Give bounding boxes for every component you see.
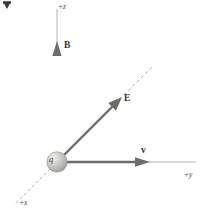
e-extension-dashed-line xyxy=(124,66,153,95)
vector-label-E: E xyxy=(124,94,130,104)
axis-label-y: +y xyxy=(184,171,192,179)
physics-vector-diagram: B E v +z +y +x q xyxy=(0,0,205,215)
vector-E xyxy=(62,97,122,157)
vector-label-B: B xyxy=(64,41,70,51)
vector-E-shaft xyxy=(62,105,114,157)
charge-label-q: q xyxy=(49,155,53,164)
crop-marker-icon xyxy=(3,2,11,10)
axis-label-x: +x xyxy=(19,199,27,207)
axis-label-z: +z xyxy=(58,3,66,11)
vector-v xyxy=(60,157,150,166)
vector-label-v: v xyxy=(141,146,146,156)
diagram-canvas xyxy=(0,0,205,215)
vector-B-arrowhead xyxy=(52,41,61,56)
vector-B xyxy=(52,41,61,160)
vector-v-arrowhead xyxy=(135,157,150,166)
